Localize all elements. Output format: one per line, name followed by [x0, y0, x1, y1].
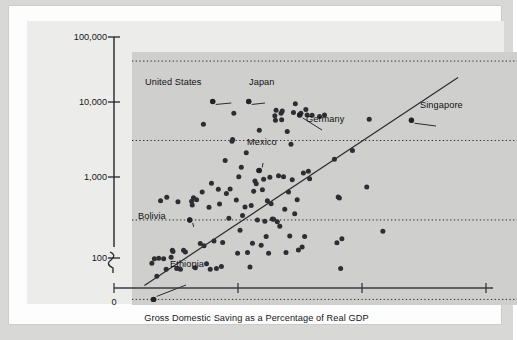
- data-point: [285, 129, 290, 134]
- data-point: [290, 177, 295, 182]
- y-axis-break-icon: [108, 252, 113, 273]
- data-point: [292, 211, 297, 216]
- data-point: [226, 216, 231, 221]
- leader-line: [216, 103, 232, 104]
- data-point: [262, 219, 267, 224]
- data-point-ethiopia: [151, 297, 156, 302]
- data-point: [364, 184, 369, 189]
- data-point: [295, 197, 300, 202]
- data-point: [214, 266, 219, 271]
- data-point: [350, 148, 355, 153]
- leader-line: [193, 223, 194, 227]
- data-point-singapore: [409, 118, 414, 123]
- data-point: [161, 256, 166, 261]
- leader-line: [262, 163, 263, 167]
- xtick-label-0: 0: [94, 297, 134, 307]
- data-point: [367, 117, 372, 122]
- data-point: [274, 108, 279, 113]
- data-point-japan: [246, 99, 251, 104]
- data-point: [264, 234, 269, 239]
- data-points: [149, 99, 414, 302]
- data-point: [337, 195, 342, 200]
- data-point: [207, 205, 212, 210]
- ytick-label-10000: 10,000: [47, 97, 107, 107]
- trend-line-segment: [144, 78, 458, 286]
- data-point-germany: [297, 112, 302, 117]
- data-point: [183, 249, 188, 254]
- data-point: [164, 267, 169, 272]
- data-point: [216, 187, 221, 192]
- data-point: [266, 251, 271, 256]
- ytick-label-100000: 100,000: [47, 32, 107, 42]
- data-point: [230, 137, 235, 142]
- data-point: [338, 266, 343, 271]
- data-point: [240, 213, 245, 218]
- annotation-label-mexico: Mexico: [247, 137, 277, 147]
- data-point: [217, 201, 222, 206]
- data-point: [201, 122, 206, 127]
- data-point: [158, 198, 163, 203]
- data-point: [224, 191, 229, 196]
- data-point: [231, 111, 236, 116]
- data-point: [259, 243, 264, 248]
- data-point-mexico: [257, 168, 262, 173]
- page-card: Per Capita Income (2002 dollars, proport…: [9, 6, 501, 324]
- data-point: [261, 177, 266, 182]
- data-point: [243, 204, 248, 209]
- data-point: [306, 169, 311, 174]
- data-point: [273, 118, 278, 123]
- data-point: [170, 249, 175, 254]
- data-point: [251, 189, 256, 194]
- data-point: [277, 224, 282, 229]
- data-point: [269, 201, 274, 206]
- leader-line: [414, 123, 436, 126]
- data-point: [211, 238, 216, 243]
- data-point: [154, 274, 159, 279]
- data-point: [200, 189, 205, 194]
- annotation-label-singapore: Singapore: [420, 100, 463, 110]
- trend-line: [144, 78, 458, 286]
- data-point: [275, 219, 280, 224]
- data-point: [152, 256, 157, 261]
- data-point: [280, 109, 285, 114]
- data-point: [236, 174, 241, 179]
- data-point: [175, 199, 180, 204]
- data-point: [209, 181, 214, 186]
- x-axis-title: Gross Domestic Saving as a Percentage of…: [0, 313, 513, 323]
- data-point: [281, 174, 286, 179]
- data-point: [194, 197, 199, 202]
- data-point: [291, 110, 296, 115]
- data-point: [255, 217, 260, 222]
- data-point: [339, 236, 344, 241]
- data-point-united-states: [210, 99, 215, 104]
- data-point: [235, 251, 240, 256]
- data-point: [228, 187, 233, 192]
- leader-line: [157, 285, 186, 296]
- data-point: [276, 173, 281, 178]
- annotation-label-bolivia: Bolivia: [138, 211, 166, 221]
- data-point: [286, 189, 291, 194]
- data-point: [334, 240, 339, 245]
- ytick-label-100: 100: [47, 253, 107, 263]
- data-point: [190, 203, 195, 208]
- data-point: [301, 170, 306, 175]
- data-point: [238, 228, 243, 233]
- data-point: [249, 203, 254, 208]
- data-point: [164, 195, 169, 200]
- data-point: [223, 158, 228, 163]
- data-point: [272, 113, 277, 118]
- data-point: [202, 243, 207, 248]
- data-point: [307, 176, 312, 181]
- figure-band: Per Capita Income (2002 dollars, proport…: [27, 21, 504, 304]
- data-point: [332, 157, 337, 162]
- data-point: [204, 261, 209, 266]
- data-point: [284, 250, 289, 255]
- leader-line: [252, 103, 265, 104]
- annotation-label-germany: Germany: [306, 114, 344, 124]
- data-point: [287, 233, 292, 238]
- data-point: [239, 165, 244, 170]
- data-point-bolivia: [187, 217, 192, 222]
- data-point: [156, 256, 161, 261]
- data-point: [257, 128, 262, 133]
- ytick-label-1000: 1,000: [47, 172, 107, 182]
